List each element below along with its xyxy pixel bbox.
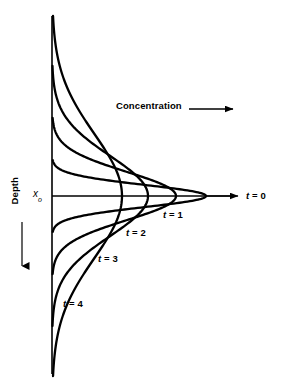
depth-axis-label: Depth <box>10 168 20 214</box>
curve-label-t0: t = 0 <box>246 191 266 201</box>
x0-origin-label: xo <box>33 189 42 201</box>
diffusion-figure: Concentration Depth xo t = 0 t = 1 t = 2… <box>0 0 285 385</box>
x0-subscript: o <box>38 196 42 203</box>
concentration-axis-label: Concentration <box>116 101 182 111</box>
curve-label-t1: t = 1 <box>163 210 183 220</box>
t0-value: = 0 <box>249 190 266 201</box>
diagram-canvas <box>0 0 285 385</box>
curve-label-t4: t = 4 <box>63 299 83 309</box>
curve-label-t2: t = 2 <box>126 228 146 238</box>
curve-label-t3: t = 3 <box>98 254 118 264</box>
